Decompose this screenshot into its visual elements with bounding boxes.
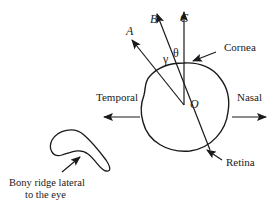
temporal-label: Temporal — [96, 91, 138, 103]
center-o-label: O — [190, 97, 199, 111]
theta-angle-label: θ — [173, 46, 179, 60]
nasal-label: Nasal — [237, 91, 262, 103]
axis-c-label: C — [180, 11, 189, 25]
bony-ridge-label-line1: Bony ridge lateral — [9, 177, 85, 188]
retina-pointer-arrow — [207, 150, 222, 160]
eye-axes-diagram: A B C γ θ O Cornea Retina Temporal Nasal… — [0, 0, 279, 200]
cornea-pointer-arrow — [193, 52, 216, 61]
axis-b-label: B — [150, 12, 158, 26]
bony-ridge-label-line2: to the eye — [25, 189, 66, 200]
gamma-angle-label: γ — [162, 52, 169, 66]
bony-ridge-pointer-arrow — [62, 157, 80, 172]
eyeball-outline — [141, 63, 229, 151]
retina-label: Retina — [226, 156, 255, 168]
axis-a-label: A — [125, 24, 134, 38]
bony-ridge-shape — [50, 130, 109, 171]
cornea-label: Cornea — [224, 41, 256, 53]
